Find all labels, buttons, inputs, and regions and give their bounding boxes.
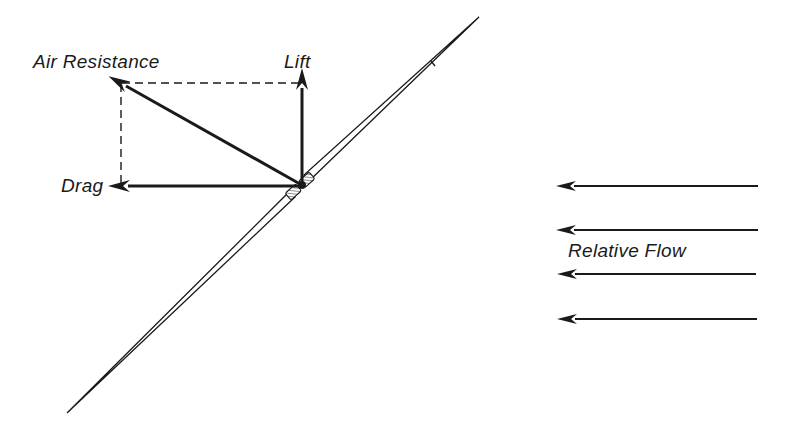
lift-label: Lift [284,51,311,73]
javelin-head [304,17,479,181]
relative-flow-label: Relative Flow [568,240,686,262]
air-resistance-arrow [126,86,300,184]
javelin [67,17,479,413]
force-vectors [126,86,302,186]
air-resistance-label: Air Resistance [33,51,160,73]
drag-label: Drag [61,175,103,197]
javelin-tail [67,192,295,413]
